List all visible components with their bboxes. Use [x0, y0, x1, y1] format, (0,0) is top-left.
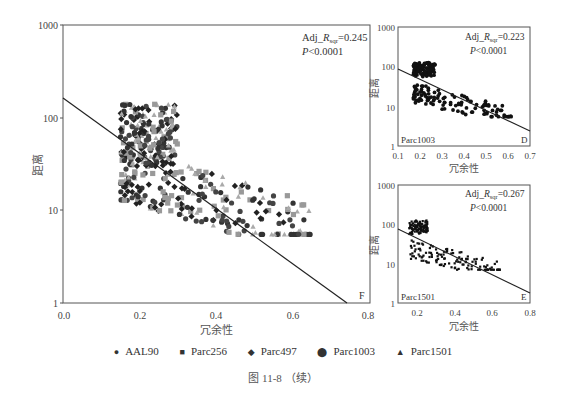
diamond-marker-icon: ◆: [248, 347, 255, 357]
svg-text:100: 100: [43, 113, 58, 124]
svg-text:1: 1: [391, 299, 396, 309]
y-axis-label-e: 距离: [368, 235, 380, 255]
x-axis-label: 冗余性: [200, 323, 233, 336]
series-label-d: Parc1003: [401, 135, 435, 145]
regression-line-e: [398, 229, 530, 293]
legend-item-aal90: ●AAL90: [114, 345, 159, 357]
panel-d: 1000100101 0.10.20.30.40.50.60.7 冗余性 距离 …: [368, 23, 536, 174]
svg-text:0.8: 0.8: [362, 310, 375, 321]
square-marker-icon: ■: [180, 347, 185, 357]
svg-text:1000: 1000: [377, 181, 396, 191]
r-squared-annotation-e: Adj_Rsqr=0.267: [465, 189, 525, 200]
svg-text:1000: 1000: [377, 23, 396, 33]
svg-text:0.3: 0.3: [436, 151, 448, 161]
svg-text:100: 100: [382, 62, 396, 72]
legend: ●AAL90 ■Parc256 ◆Parc497 ⬤Parc1003 ▲Parc…: [0, 345, 566, 357]
x-tick-labels-e: 0.20.40.60.8: [411, 308, 536, 318]
panel-label-f: F: [359, 290, 365, 301]
p-value-annotation-d: P<0.0001: [469, 46, 508, 56]
svg-text:0.4: 0.4: [458, 151, 470, 161]
scatter-points-d: [412, 61, 514, 119]
triangle-marker-icon: ▲: [396, 347, 405, 357]
svg-text:0.8: 0.8: [524, 308, 536, 318]
scatter-points-e: [408, 219, 501, 270]
plot-frame: [63, 25, 370, 303]
x-tick-labels-d: 0.10.20.30.40.50.60.7: [392, 151, 536, 161]
main-panel-f: 1000 100 10 1 0.0 0.2 0.4 0.6 0.8 冗余性 距离…: [31, 20, 374, 336]
large-circle-marker-icon: ⬤: [317, 347, 327, 357]
figure-caption: 图 11-8 （续）: [0, 369, 566, 385]
svg-text:0.0: 0.0: [58, 310, 71, 321]
y-axis-label: 距离: [31, 154, 44, 176]
series-label-e: Parc1501: [401, 292, 435, 302]
svg-text:0.6: 0.6: [486, 308, 498, 318]
svg-text:0.2: 0.2: [134, 310, 147, 321]
svg-text:0.5: 0.5: [480, 151, 492, 161]
svg-text:0.2: 0.2: [414, 151, 425, 161]
p-value-annotation-e: P<0.0001: [469, 203, 508, 213]
svg-text:0.6: 0.6: [502, 151, 514, 161]
svg-text:10: 10: [386, 103, 396, 113]
svg-text:0.1: 0.1: [392, 151, 403, 161]
svg-text:0.6: 0.6: [287, 310, 300, 321]
x-axis-label-d: 冗余性: [449, 162, 479, 174]
panel-e: 1000100101 0.20.40.60.8 冗余性 距离 Adj_Rsqr=…: [368, 181, 536, 332]
panel-label-d: D: [521, 135, 528, 145]
legend-item-parc497: ◆Parc497: [248, 345, 297, 357]
svg-text:0.7: 0.7: [524, 151, 536, 161]
svg-text:1000: 1000: [38, 20, 58, 31]
regression-line: [63, 98, 347, 303]
svg-text:0.4: 0.4: [449, 308, 461, 318]
svg-text:1: 1: [53, 298, 58, 309]
r-squared-annotation-d: Adj_Rsqr=0.223: [465, 32, 525, 43]
panel-label-e: E: [521, 292, 527, 302]
scatter-points: [118, 102, 313, 237]
circle-marker-icon: ●: [114, 347, 119, 357]
figure-canvas: 1000 100 10 1 0.0 0.2 0.4 0.6 0.8 冗余性 距离…: [0, 0, 566, 345]
x-axis-label-e: 冗余性: [449, 320, 479, 332]
legend-item-parc1501: ▲Parc1501: [396, 345, 452, 357]
legend-item-parc256: ■Parc256: [180, 345, 227, 357]
legend-item-parc1003: ⬤Parc1003: [317, 345, 375, 357]
svg-text:0.4: 0.4: [210, 310, 223, 321]
y-axis-label-d: 距离: [368, 78, 380, 98]
svg-text:0.2: 0.2: [411, 308, 422, 318]
svg-text:10: 10: [386, 260, 396, 270]
svg-text:100: 100: [382, 220, 396, 230]
x-tick-labels: 0.0 0.2 0.4 0.6 0.8: [58, 310, 375, 321]
svg-text:10: 10: [48, 205, 58, 216]
r-squared-annotation: Adj_Rsqr=0.245: [302, 32, 368, 45]
p-value-annotation: P<0.0001: [301, 46, 343, 57]
